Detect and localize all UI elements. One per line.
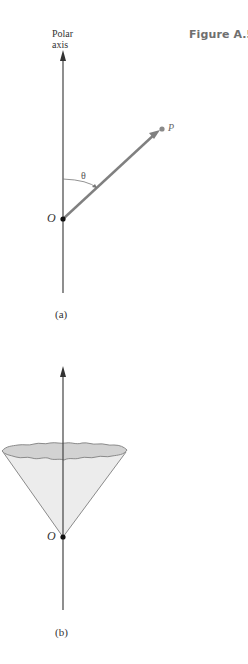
caption-a: (a) xyxy=(55,308,67,320)
caption-b: (b) xyxy=(55,626,68,638)
cone-body xyxy=(3,452,126,537)
origin-point-a xyxy=(60,216,65,221)
origin-label-b: O xyxy=(47,529,56,544)
origin-point-b xyxy=(60,534,65,539)
point-p xyxy=(159,126,164,131)
point-p-label: P xyxy=(168,122,174,133)
diagram-canvas xyxy=(0,0,248,664)
panel-b xyxy=(2,366,127,610)
origin-label-a: O xyxy=(47,211,56,226)
polar-axis-arrowhead-a xyxy=(60,50,66,61)
angle-arc xyxy=(63,179,97,188)
position-vector xyxy=(63,133,156,219)
polar-axis-arrowhead-b xyxy=(60,366,66,377)
panel-a xyxy=(60,50,165,293)
angle-arc-arrowhead xyxy=(92,184,97,188)
theta-label: θ xyxy=(81,170,86,181)
